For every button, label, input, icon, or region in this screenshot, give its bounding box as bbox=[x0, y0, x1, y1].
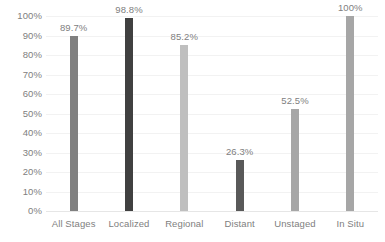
bar[interactable] bbox=[291, 109, 299, 211]
bar-slot: 85.2% bbox=[157, 0, 212, 242]
bar[interactable] bbox=[180, 45, 188, 211]
y-tick-label: 20% bbox=[0, 167, 42, 177]
y-axis: 0%10%20%30%40%50%60%70%80%90%100% bbox=[0, 0, 42, 242]
bars-layer: 89.7%98.8%85.2%26.3%52.5%100% bbox=[46, 0, 378, 242]
y-tick-label: 80% bbox=[0, 50, 42, 60]
y-tick-label: 100% bbox=[0, 11, 42, 21]
x-axis-categories: All StagesLocalizedRegionalDistantUnstag… bbox=[46, 218, 378, 238]
bar-slot: 52.5% bbox=[267, 0, 322, 242]
bar[interactable] bbox=[70, 36, 78, 211]
bar-value-label: 52.5% bbox=[281, 95, 308, 106]
y-tick-label: 60% bbox=[0, 89, 42, 99]
bar-value-label: 26.3% bbox=[226, 146, 253, 157]
y-tick-label: 30% bbox=[0, 148, 42, 158]
bar-value-label: 85.2% bbox=[171, 31, 198, 42]
y-tick-label: 10% bbox=[0, 187, 42, 197]
y-tick-label: 50% bbox=[0, 109, 42, 119]
bar-slot: 89.7% bbox=[46, 0, 101, 242]
bar-slot: 26.3% bbox=[212, 0, 267, 242]
x-tick-label: In Situ bbox=[323, 218, 378, 230]
y-tick-label: 40% bbox=[0, 128, 42, 138]
x-tick-label: Regional bbox=[157, 218, 212, 230]
bar[interactable] bbox=[346, 16, 354, 211]
x-tick-label: Unstaged bbox=[267, 218, 322, 230]
y-tick-label: 90% bbox=[0, 31, 42, 41]
y-tick-label: 70% bbox=[0, 70, 42, 80]
bar-value-label: 98.8% bbox=[115, 4, 142, 15]
bar-chart: 0%10%20%30%40%50%60%70%80%90%100% 89.7%9… bbox=[0, 0, 385, 242]
bar-value-label: 100% bbox=[338, 2, 363, 13]
bar[interactable] bbox=[125, 18, 133, 211]
x-tick-label: All Stages bbox=[46, 218, 101, 230]
bar-slot: 98.8% bbox=[101, 0, 156, 242]
x-tick-label: Localized bbox=[101, 218, 156, 230]
bar-slot: 100% bbox=[323, 0, 378, 242]
x-tick-label: Distant bbox=[212, 218, 267, 230]
bar[interactable] bbox=[236, 160, 244, 211]
y-tick-label: 0% bbox=[0, 206, 42, 216]
bar-value-label: 89.7% bbox=[60, 22, 87, 33]
